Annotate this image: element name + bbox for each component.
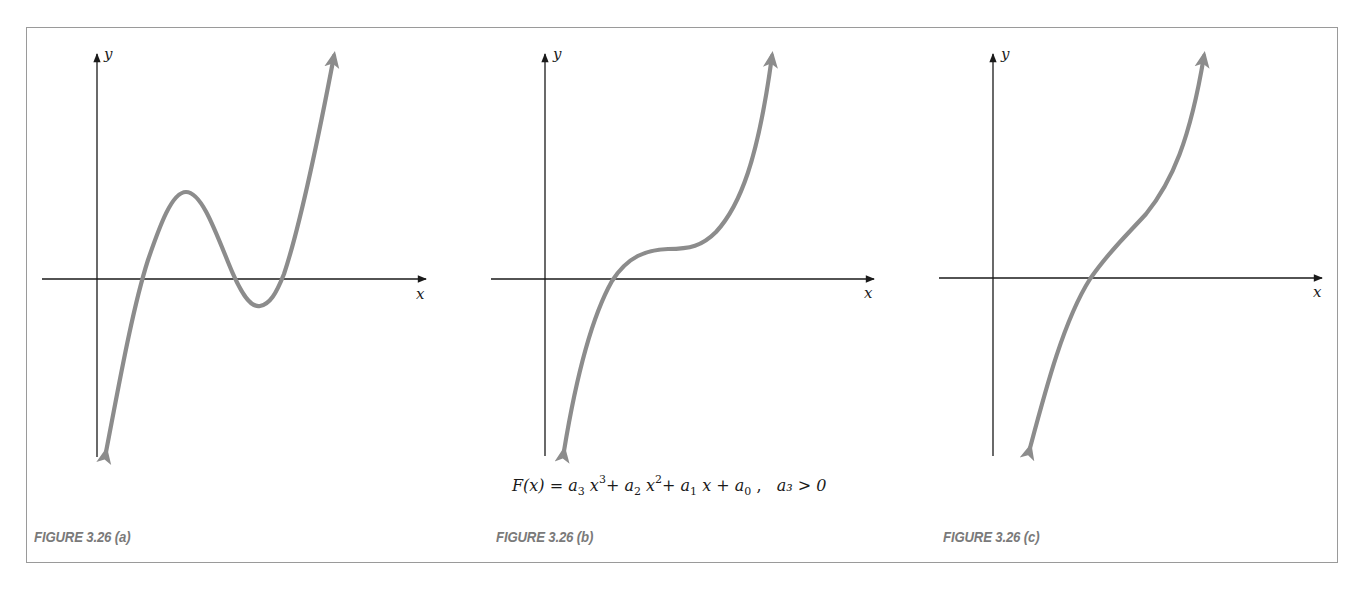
formula-coef: a [624,476,634,495]
y-axis-label: y [1000,45,1010,63]
cubic-curve-c [1030,56,1204,448]
formula-sub: 3 [578,485,585,498]
formula-pow: 2 [655,473,662,486]
y-axis-label: y [552,45,562,63]
panel-a: y x [42,45,426,457]
cubic-curve-b [564,56,772,451]
x-axis-label: x [416,285,425,303]
formula-lhs: F(x) [512,476,545,495]
formula-pow: 3 [599,473,606,486]
y-axis-label: y [103,45,113,63]
figure-plots: y x y x y x [0,0,1356,592]
caption-c: FIGURE 3.26 (c) [943,528,1039,545]
formula-var: x [590,476,599,495]
formula-sub: 1 [690,485,697,498]
cubic-curve-a [106,56,334,452]
formula-sub: 2 [634,485,641,498]
formula-var: x [702,476,711,495]
panel-b: y x [491,45,874,456]
caption-b: FIGURE 3.26 (b) [496,528,593,545]
formula-var: x [646,476,655,495]
formula-condition: a₃ > 0 [777,476,827,495]
x-axis-label: x [864,284,873,302]
x-axis-label: x [1313,283,1322,301]
formula-sub: 0 [744,485,751,498]
formula-equals: = [550,476,563,495]
cubic-formula: F(x) = a3 x3+ a2 x2+ a1 x + a0 , a₃ > 0 [512,476,827,498]
formula-coef: a [681,476,691,495]
panel-c: y x [939,45,1322,456]
formula-coef: a [568,476,578,495]
formula-coef: a [735,476,745,495]
caption-a: FIGURE 3.26 (a) [34,528,130,545]
